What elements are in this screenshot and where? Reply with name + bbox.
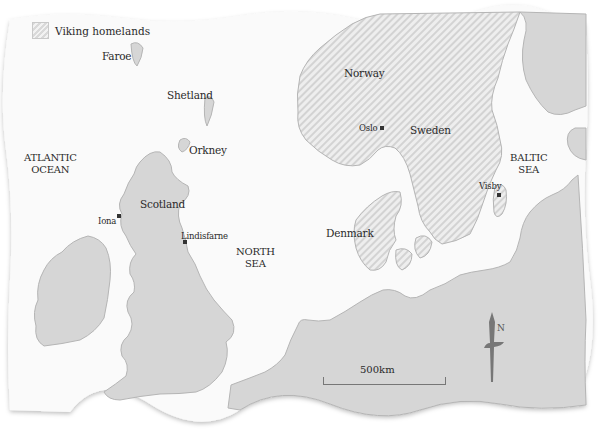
baltic-line1: BALTIC [510,152,547,164]
atlantic-line2: OCEAN [24,164,77,176]
label-iona: Iona [98,216,116,226]
label-baltic-sea: BALTIC SEA [510,152,547,176]
city-marker-oslo [380,126,384,130]
label-scotland: Scotland [140,198,185,210]
north-sea-line2: SEA [236,258,275,270]
viking-map: Viking homelands Faroe Shetland Orkney A… [0,0,599,437]
legend: Viking homelands [32,22,150,39]
label-denmark: Denmark [326,227,374,239]
label-norway: Norway [344,67,385,79]
label-shetland: Shetland [167,89,213,101]
north-arrow-label: N [497,323,505,333]
north-sea-line1: NORTH [236,246,275,258]
label-north-sea: NORTH SEA [236,246,275,270]
hatch-swatch-icon [32,22,49,39]
label-sweden: Sweden [410,124,451,136]
label-faroe: Faroe [102,50,131,62]
label-lindisfarne: Lindisfarne [181,231,228,241]
atlantic-line1: ATLANTIC [24,152,77,164]
label-orkney: Orkney [189,144,227,156]
label-oslo: Oslo [359,123,377,133]
scale-bar [323,377,446,385]
map-canvas [0,0,599,437]
label-visby: Visby [479,181,501,191]
city-marker-visby [497,193,501,197]
city-marker-lindisfarne [183,240,187,244]
legend-label: Viking homelands [55,25,150,37]
label-atlantic-ocean: ATLANTIC OCEAN [24,152,77,176]
city-marker-iona [117,214,121,218]
baltic-line2: SEA [510,164,547,176]
scale-bar-label: 500km [360,364,395,375]
